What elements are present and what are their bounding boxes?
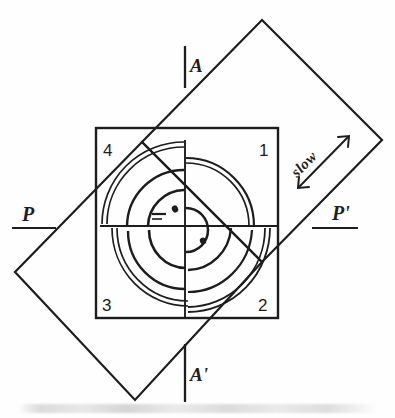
- label-A-prime: A': [189, 364, 208, 385]
- label-A: A: [189, 55, 203, 76]
- quadrant-label-4: 4: [103, 141, 112, 160]
- spiral-inner-arc-a: [148, 190, 184, 226]
- label-P-prime: P': [331, 202, 350, 224]
- slow-label: slow: [287, 148, 320, 181]
- center-dot-upper: [171, 204, 180, 213]
- spiral-inner-arc-b: [149, 230, 186, 268]
- spiral-outer-arc-a: [102, 142, 184, 224]
- spiral-pattern: [102, 142, 270, 312]
- figure-root: A A' P P' 4 1 3 2 slow: [0, 0, 395, 418]
- inner-square: [96, 128, 278, 318]
- label-P: P: [21, 203, 35, 225]
- spiral-inner-arc-c: [188, 228, 231, 270]
- rotated-square-lower: [15, 142, 262, 400]
- quadrant-label-3: 3: [102, 296, 111, 315]
- spiral-core-arc: [186, 208, 208, 252]
- spiral-middle-arc-b: [128, 231, 186, 289]
- quadrant-label-1: 1: [259, 141, 268, 160]
- diagram-canvas: A A' P P' 4 1 3 2 slow: [0, 0, 395, 418]
- quadrant-label-2: 2: [258, 296, 267, 315]
- spiral-arc-q1-outer: [186, 158, 254, 226]
